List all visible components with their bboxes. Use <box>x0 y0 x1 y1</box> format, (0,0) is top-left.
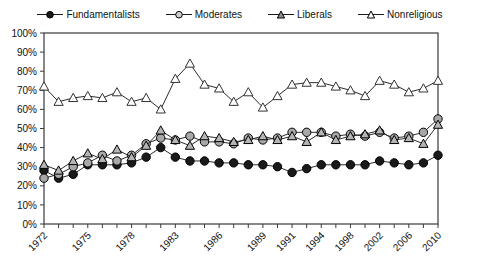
legend-item-moderates: Moderates <box>166 9 242 20</box>
gray-circle-icon <box>166 9 192 20</box>
data-point-marker <box>419 128 427 136</box>
data-point-marker <box>302 137 311 145</box>
open-triangle-icon <box>358 9 384 20</box>
data-point-marker <box>40 174 48 182</box>
x-tick-label: 1991 <box>274 229 298 253</box>
data-point-marker <box>244 88 253 96</box>
data-point-marker <box>346 161 354 169</box>
data-point-marker <box>185 141 194 149</box>
data-point-marker <box>433 76 442 84</box>
data-point-marker <box>390 159 398 167</box>
data-point-marker <box>142 93 151 101</box>
data-point-marker <box>405 161 413 169</box>
data-point-marker <box>39 160 48 168</box>
legend-label-nonreligious: Nonreligious <box>387 9 443 20</box>
data-point-marker <box>142 153 150 161</box>
series-moderates <box>40 115 442 183</box>
data-point-marker <box>273 163 281 171</box>
y-tick-label: 0% <box>23 219 38 230</box>
data-point-marker <box>171 153 179 161</box>
data-point-marker <box>215 159 223 167</box>
data-point-marker <box>302 128 310 136</box>
line-chart-plot: 0%10%20%30%40%50%60%70%80%90%100% 197219… <box>0 0 480 271</box>
x-tick-label: 1975 <box>70 229 94 253</box>
data-point-marker <box>332 161 340 169</box>
y-tick-label: 20% <box>17 180 37 191</box>
x-tick-label: 2010 <box>420 229 444 253</box>
x-tick-label: 1986 <box>201 229 225 253</box>
chart-legend: Fundamentalists Moderates Liberals <box>24 4 456 24</box>
data-point-marker <box>419 84 428 92</box>
x-tick-label: 1998 <box>332 229 356 253</box>
data-point-marker <box>419 159 427 167</box>
filled-circle-icon <box>37 9 63 20</box>
data-point-marker <box>156 126 165 134</box>
data-point-marker <box>419 139 428 147</box>
series-layer <box>39 59 442 182</box>
x-tick-label: 1994 <box>303 229 327 253</box>
legend-label-fundamentalists: Fundamentalists <box>66 9 139 20</box>
data-point-marker <box>112 88 121 96</box>
y-tick-label: 100% <box>11 28 37 39</box>
data-point-marker <box>186 132 194 140</box>
data-point-marker <box>39 82 48 90</box>
data-point-marker <box>83 91 92 99</box>
data-point-marker <box>185 59 194 67</box>
y-tick-label: 60% <box>17 104 37 115</box>
legend-item-liberals: Liberals <box>268 9 332 20</box>
y-tick-label: 30% <box>17 161 37 172</box>
data-point-marker <box>259 161 267 169</box>
y-tick-label: 80% <box>17 66 37 77</box>
data-point-marker <box>375 157 383 165</box>
legend-label-liberals: Liberals <box>297 9 332 20</box>
data-point-marker <box>84 159 92 167</box>
data-point-marker <box>157 143 165 151</box>
data-point-marker <box>186 157 194 165</box>
data-point-marker <box>288 168 296 176</box>
data-point-marker <box>258 132 267 140</box>
y-axis: 0%10%20%30%40%50%60%70%80%90%100% <box>11 28 44 230</box>
data-point-marker <box>54 166 63 174</box>
data-point-marker <box>157 134 165 142</box>
data-point-marker <box>113 157 121 165</box>
data-point-marker <box>302 164 310 172</box>
legend-item-fundamentalists: Fundamentalists <box>37 9 139 20</box>
data-point-marker <box>230 159 238 167</box>
data-point-marker <box>361 161 369 169</box>
y-tick-label: 40% <box>17 142 37 153</box>
y-tick-label: 90% <box>17 47 37 58</box>
data-point-marker <box>375 76 384 84</box>
legend-label-moderates: Moderates <box>195 9 242 20</box>
data-point-marker <box>112 145 121 153</box>
data-point-marker <box>200 132 209 140</box>
gray-triangle-icon <box>268 9 294 20</box>
x-tick-label: 2002 <box>362 229 386 253</box>
data-point-marker <box>317 161 325 169</box>
data-point-marker <box>200 80 209 88</box>
data-point-marker <box>244 161 252 169</box>
chart-container: Fundamentalists Moderates Liberals <box>0 0 480 271</box>
x-tick-label: 1972 <box>26 229 50 253</box>
data-point-marker <box>156 105 165 113</box>
legend-item-nonreligious: Nonreligious <box>358 9 443 20</box>
data-point-marker <box>273 91 282 99</box>
x-tick-label: 1978 <box>113 229 137 253</box>
data-point-marker <box>83 149 92 157</box>
data-point-marker <box>69 156 78 164</box>
x-axis: 1972197519781983198619891991199419982002… <box>26 224 444 253</box>
series-nonreligious <box>39 59 442 113</box>
x-tick-label: 1983 <box>157 229 181 253</box>
x-tick-label: 1989 <box>245 229 269 253</box>
data-point-marker <box>200 157 208 165</box>
y-tick-label: 10% <box>17 200 37 211</box>
y-tick-label: 50% <box>17 123 37 134</box>
x-tick-label: 2006 <box>391 229 415 253</box>
data-point-marker <box>434 151 442 159</box>
y-tick-label: 70% <box>17 85 37 96</box>
